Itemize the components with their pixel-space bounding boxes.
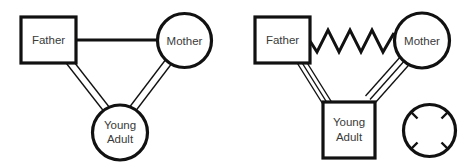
node-mother-left[interactable]: Mother [158,14,212,68]
father-label: Father [266,34,299,46]
relation-father-mother-conflict-zigzag [310,30,394,52]
panel-left-genogram: Father Mother Young Adult [21,14,212,161]
panel-right-genogram: Father Mother Young Adult [255,13,456,158]
young-adult-label-line1: Young [333,116,365,128]
genogram-canvas: Father Mother Young Adult [0,0,470,165]
father-label: Father [32,34,65,46]
relation-mother-young-adult-double-line [129,59,173,113]
young-adult-label-line2: Adult [107,133,134,145]
young-adult-label-line2: Adult [336,131,363,143]
young-adult-square-shape [323,102,375,158]
relation-father-young-adult-triple-line [298,64,333,104]
genogram-figure: Father Mother Young Adult [0,0,470,165]
young-adult-label-line1: Young [104,119,136,131]
relation-father-young-adult-double-line [67,60,112,114]
node-mother-right[interactable]: Mother [395,13,450,68]
node-father-left[interactable]: Father [21,17,76,63]
node-young-adult-right[interactable]: Young Adult [323,102,375,158]
node-young-adult-left[interactable]: Young Adult [93,105,148,160]
node-marker-circle[interactable] [404,105,456,157]
mother-label: Mother [404,35,440,47]
mother-label: Mother [167,35,203,47]
node-father-right[interactable]: Father [255,17,310,63]
